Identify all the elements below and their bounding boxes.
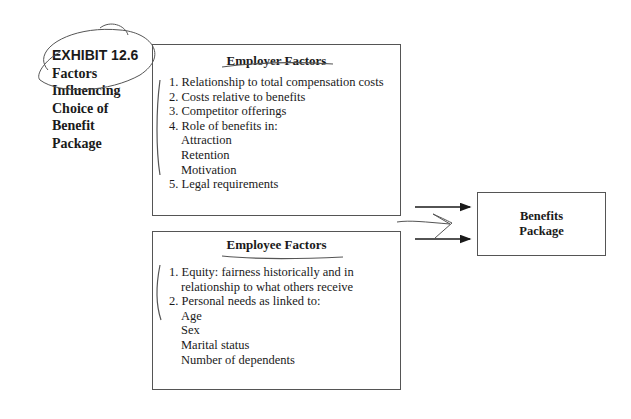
- title-line: Choice of: [52, 100, 138, 118]
- sub-item: Retention: [169, 148, 384, 163]
- list-item-continuation: relationship to what others receive: [169, 280, 354, 295]
- title-line: Benefit: [52, 117, 138, 135]
- sub-item: Motivation: [169, 163, 384, 178]
- benefits-label: Benefits: [519, 209, 563, 224]
- employer-factors-box: Employer Factors 1. Relationship to tota…: [152, 44, 401, 216]
- employer-factors-heading: Employer Factors: [153, 53, 400, 69]
- exhibit-label: EXHIBIT 12.6: [52, 47, 138, 65]
- list-item: 2. Personal needs as linked to:: [169, 294, 354, 309]
- benefits-package-box: Benefits Package: [477, 192, 606, 256]
- sub-item: Age: [169, 309, 354, 324]
- benefits-label: Package: [519, 224, 563, 239]
- sub-item: Sex: [169, 323, 354, 338]
- sub-item: Number of dependents: [169, 353, 354, 368]
- employee-factors-list: 1. Equity: fairness historically and in …: [169, 265, 354, 367]
- exhibit-title: EXHIBIT 12.6 Factors Influencing Choice …: [52, 47, 138, 152]
- title-line: Factors: [52, 65, 138, 83]
- title-line: Package: [52, 135, 138, 153]
- list-item: 1. Equity: fairness historically and in: [169, 265, 354, 280]
- title-line: Influencing: [52, 82, 138, 100]
- employee-factors-box: Employee Factors 1. Equity: fairness his…: [152, 231, 401, 390]
- list-item: 2. Costs relative to benefits: [169, 90, 384, 105]
- employer-factors-list: 1. Relationship to total compensation co…: [169, 75, 384, 192]
- sub-item: Attraction: [169, 133, 384, 148]
- sub-item: Marital status: [169, 338, 354, 353]
- list-item: 5. Legal requirements: [169, 177, 384, 192]
- list-item: 3. Competitor offerings: [169, 104, 384, 119]
- list-item: 1. Relationship to total compensation co…: [169, 75, 384, 90]
- list-item: 4. Role of benefits in:: [169, 119, 384, 134]
- handwritten-scribble-icon: [397, 214, 452, 238]
- employee-factors-heading: Employee Factors: [153, 237, 400, 253]
